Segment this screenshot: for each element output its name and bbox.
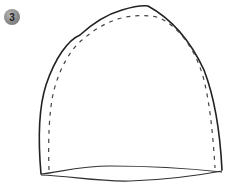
bottom-edge-upper	[41, 166, 222, 174]
bottom-edge-lower	[41, 171, 222, 181]
diagram-canvas: 3	[0, 0, 233, 184]
hat-pattern-piece	[0, 0, 233, 184]
outer-cut-line	[39, 6, 222, 174]
